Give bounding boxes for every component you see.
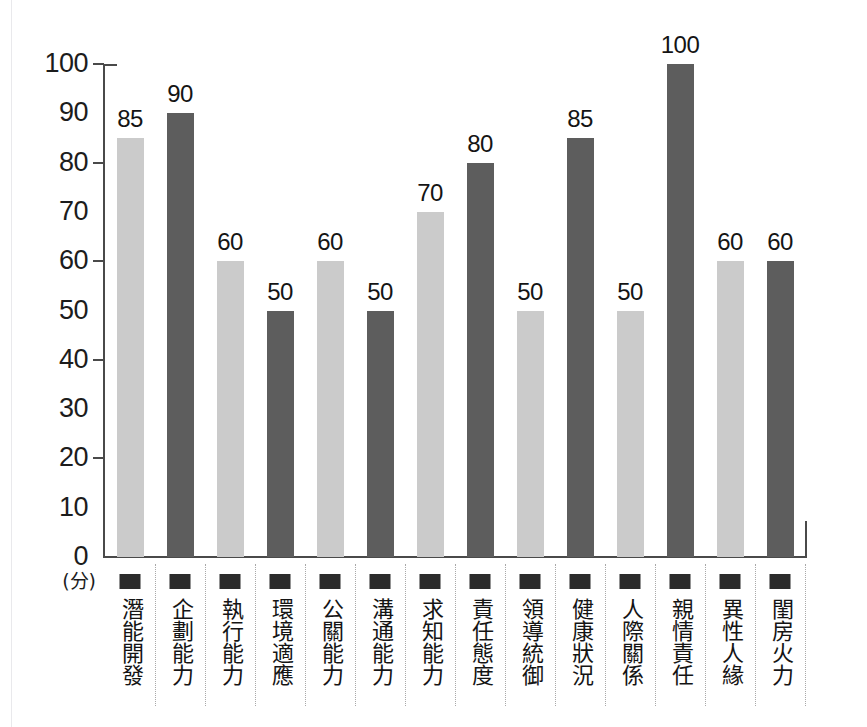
category-marker-icon xyxy=(320,574,341,589)
bar-slot: 70 xyxy=(417,64,444,557)
bar-slot: 85 xyxy=(567,64,594,557)
category-separator xyxy=(605,564,606,706)
category-slot: 潛能開發 xyxy=(105,558,155,727)
bar-slot: 80 xyxy=(467,64,494,557)
bar-value-label: 60 xyxy=(703,230,758,254)
bar-value-label: 70 xyxy=(403,181,458,205)
category-separator xyxy=(405,564,406,706)
category-marker-icon xyxy=(770,574,791,589)
bar-slot: 85 xyxy=(117,64,144,557)
category-separator xyxy=(305,564,306,706)
bar-slot: 50 xyxy=(617,64,644,557)
y-axis-tick-label: 90 xyxy=(6,99,88,126)
category-separator xyxy=(655,564,656,706)
bar-value-label: 85 xyxy=(103,107,158,131)
y-axis-tick-label: 40 xyxy=(6,346,88,373)
category-slot: 執行能力 xyxy=(205,558,255,727)
y-axis-tick-labels: 1009080706050403020100 xyxy=(0,0,88,727)
category-slot: 企劃能力 xyxy=(155,558,205,727)
category-slot: 領導統御 xyxy=(505,558,555,727)
category-separator xyxy=(255,564,256,706)
bar-slot: 90 xyxy=(167,64,194,557)
category-label: 公關能力 xyxy=(319,598,342,723)
bar[interactable] xyxy=(117,138,144,557)
bar-slot: 60 xyxy=(317,64,344,557)
bar[interactable] xyxy=(317,261,344,557)
category-slot: 公關能力 xyxy=(305,558,355,727)
bar-slot: 60 xyxy=(717,64,744,557)
bar-value-label: 80 xyxy=(453,132,508,156)
category-marker-icon xyxy=(520,574,541,589)
category-slot: 異性人緣 xyxy=(705,558,755,727)
category-label: 企劃能力 xyxy=(169,598,192,723)
bar-value-label: 85 xyxy=(553,107,608,131)
category-label: 潛能開發 xyxy=(119,598,142,723)
category-marker-icon xyxy=(170,574,191,589)
bar[interactable] xyxy=(517,311,544,558)
category-marker-icon xyxy=(670,574,691,589)
category-separator xyxy=(205,564,206,706)
bar[interactable] xyxy=(467,163,494,557)
bar[interactable] xyxy=(267,311,294,558)
category-marker-icon xyxy=(620,574,641,589)
category-marker-icon xyxy=(270,574,291,589)
bar-value-label: 60 xyxy=(753,230,808,254)
bar-value-label: 60 xyxy=(303,230,358,254)
category-slot: 親情責任 xyxy=(655,558,705,727)
bar[interactable] xyxy=(767,261,794,557)
category-marker-icon xyxy=(570,574,591,589)
bar-slot: 100 xyxy=(667,64,694,557)
plot-area: 85906050605070805085501006060 xyxy=(105,64,805,557)
bar-value-label: 50 xyxy=(353,280,408,304)
category-separator xyxy=(555,564,556,706)
category-marker-icon xyxy=(370,574,391,589)
category-marker-icon xyxy=(120,574,141,589)
category-label: 責任態度 xyxy=(469,598,492,723)
bar-value-label: 90 xyxy=(153,82,208,106)
bar[interactable] xyxy=(617,311,644,558)
bar[interactable] xyxy=(217,261,244,557)
bar-slot: 50 xyxy=(367,64,394,557)
category-label: 溝通能力 xyxy=(369,598,392,723)
category-marker-icon xyxy=(470,574,491,589)
category-slot: 環境適應 xyxy=(255,558,305,727)
category-separator xyxy=(755,564,756,706)
category-slot: 閨房火力 xyxy=(755,558,805,727)
category-separator xyxy=(155,564,156,706)
bar[interactable] xyxy=(717,261,744,557)
category-separator xyxy=(705,564,706,706)
bar[interactable] xyxy=(367,311,394,558)
category-slot: 溝通能力 xyxy=(355,558,405,727)
bar-value-label: 60 xyxy=(203,230,258,254)
y-axis-unit-label: (分) xyxy=(8,566,96,593)
y-axis-tick-label: 20 xyxy=(6,444,88,471)
category-slot: 人際關係 xyxy=(605,558,655,727)
y-axis-tick-label: 70 xyxy=(6,198,88,225)
category-separator xyxy=(505,564,506,706)
bar-slot: 50 xyxy=(267,64,294,557)
bar-value-label: 50 xyxy=(253,280,308,304)
bar-chart: 1009080706050403020100 (分) 8590605060507… xyxy=(0,0,867,727)
y-axis-tick-label: 50 xyxy=(6,297,88,324)
category-label: 求知能力 xyxy=(419,598,442,723)
bar-value-label: 50 xyxy=(503,280,558,304)
bar[interactable] xyxy=(567,138,594,557)
category-separator xyxy=(805,564,806,706)
bar[interactable] xyxy=(417,212,444,557)
bar[interactable] xyxy=(167,113,194,557)
y-axis-tick-label: 30 xyxy=(6,395,88,422)
category-slot: 健康狀況 xyxy=(555,558,605,727)
bar[interactable] xyxy=(667,64,694,557)
category-label: 環境適應 xyxy=(269,598,292,723)
category-label: 人際關係 xyxy=(619,598,642,723)
bar-slot: 60 xyxy=(767,64,794,557)
category-label: 健康狀況 xyxy=(569,598,592,723)
category-label: 領導統御 xyxy=(519,598,542,723)
bar-value-label: 50 xyxy=(603,280,658,304)
category-separator xyxy=(455,564,456,706)
y-axis-tick-label: 10 xyxy=(6,494,88,521)
category-slot: 責任態度 xyxy=(455,558,505,727)
plot-right-border xyxy=(805,521,807,558)
category-label: 閨房火力 xyxy=(769,598,792,723)
category-label: 執行能力 xyxy=(219,598,242,723)
